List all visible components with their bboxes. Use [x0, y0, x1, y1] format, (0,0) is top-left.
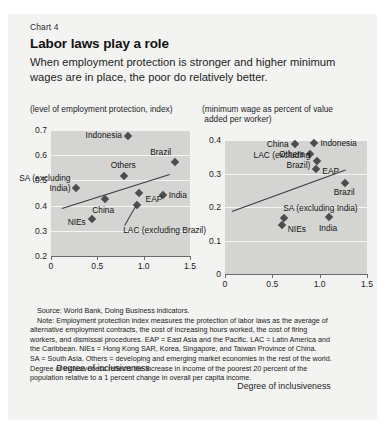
data-point-label-line: Indonesia [86, 130, 122, 140]
data-point-label-line: China [92, 205, 114, 215]
data-point-label: LAC (excludingBrazil) [254, 151, 311, 171]
x-axis-tickmark [225, 275, 226, 278]
x-axis-line [51, 256, 191, 257]
x-axis-tickmark [367, 275, 368, 278]
data-point-marker [124, 132, 132, 140]
data-point-label-line: NIEs [68, 217, 86, 227]
data-point-label-line: LAC (excluding [254, 150, 311, 160]
x-axis-tickmark [97, 257, 98, 260]
data-point-label: China [92, 206, 114, 216]
gridline [51, 180, 190, 181]
y-axis-tick-label: 0.4 [209, 135, 221, 145]
x-axis-tickmark [272, 275, 273, 278]
note-line-7: population relative to a 1 percent chang… [30, 373, 360, 383]
data-point-label-line: Indonesia [320, 138, 356, 148]
data-point-label: EAP [146, 195, 163, 205]
y-axis-tick-label: 0 [216, 269, 221, 279]
x-axis-line [225, 274, 368, 275]
data-point-marker [341, 179, 349, 187]
y-axis-tick-label: 0.3 [209, 169, 221, 179]
chart-number-label: Chart 4 [30, 22, 59, 32]
note-line-2: alternative employment contracts, the co… [30, 325, 360, 335]
data-point-label: India [169, 191, 187, 201]
y-axis-tick-label: 0.4 [35, 201, 47, 211]
x-axis-tick-label: 0.5 [266, 279, 278, 289]
note-line-6: Degree of inclusiveness reflects the inc… [30, 364, 360, 374]
note-line-1: Note: Employment protection index measur… [30, 316, 360, 326]
data-point-marker [134, 189, 142, 197]
data-point-label-line: Brazil [334, 187, 355, 197]
note-source: Source: World Bank, Doing Business indic… [30, 306, 360, 316]
x-axis-tickmark [51, 257, 52, 260]
data-point-label-line: India [319, 223, 337, 233]
data-point-marker [120, 172, 128, 180]
x-axis-tick-label: 1.5 [361, 279, 373, 289]
data-point-marker [171, 158, 179, 166]
label-leader-line [124, 205, 137, 226]
data-point-marker [88, 215, 96, 223]
data-point-label: SA (excluding India) [283, 204, 358, 214]
data-point-label: EAP [322, 167, 339, 177]
x-axis-tick-label: 1.0 [314, 279, 326, 289]
note-line-4: the Caribbean. NIEs = Hong Kong SAR, Kor… [30, 344, 360, 354]
y-axis-tick-label: 0.7 [35, 125, 47, 135]
x-axis-tickmark [320, 275, 321, 278]
x-axis-tickmark [144, 257, 145, 260]
data-point-marker [290, 140, 298, 148]
gridline [225, 241, 367, 242]
y-axis-tick-label: 0.1 [209, 236, 221, 246]
data-point-label: Others [111, 161, 136, 171]
data-point-label: Indonesia [320, 139, 356, 149]
data-point-label-line: EAP [146, 194, 163, 204]
y-axis-tick-label: 0.2 [209, 202, 221, 212]
x-axis-tick-label: 0.5 [91, 261, 103, 271]
data-point-marker [101, 195, 109, 203]
data-point-label: India [319, 224, 337, 234]
data-point-label-line: EAP [322, 166, 339, 176]
chart-subtitle: When employment protection is stronger a… [30, 55, 360, 84]
data-point-label: Indonesia [86, 131, 122, 141]
x-axis-tickmark [190, 257, 191, 260]
data-point-label-line: China [267, 139, 289, 149]
chart-title: Labor laws play a role [30, 36, 169, 51]
data-point-label-line: India) [50, 183, 71, 193]
left-plot-area: IndonesiaBrazilOthersSA (excludingIndia)… [51, 130, 190, 256]
data-point-label: NIEs [288, 225, 306, 235]
x-axis-tick-label: 0 [223, 279, 228, 289]
x-axis-tick-label: 1.0 [138, 261, 150, 271]
data-point-marker [278, 221, 286, 229]
y-axis-tick-label: 0.3 [35, 226, 47, 236]
data-point-label: NIEs [68, 218, 86, 228]
note-line-5: SA = South Asia. Others = developing and… [30, 354, 360, 364]
data-point-label-line: Others [111, 160, 136, 170]
data-point-label-line: India [169, 190, 187, 200]
chart-figure: Chart 4 Labor laws play a role When empl… [0, 0, 385, 426]
data-point-label-line: Brazil) [287, 160, 311, 170]
right-plot-area: ChinaIndonesiaOthersLAC (excludingBrazil… [225, 140, 367, 274]
data-point-label-line: SA (excluding India) [283, 203, 358, 213]
data-point-marker [313, 157, 321, 165]
data-point-marker [72, 184, 80, 192]
data-point-label-line: Brazil [150, 147, 171, 157]
y-axis-tick-label: 0.5 [35, 175, 47, 185]
chart-notes: Source: World Bank, Doing Business indic… [30, 306, 360, 383]
x-axis-tick-label: 0 [49, 261, 54, 271]
data-point-label: Brazil [150, 148, 171, 158]
data-point-marker [325, 213, 333, 221]
note-line-3: workers, and dismissal procedures. EAP =… [30, 335, 360, 345]
data-point-marker [312, 165, 320, 173]
data-point-label: Brazil [334, 188, 355, 198]
data-point-label-line: NIEs [288, 224, 306, 234]
y-axis-tick-label: 0.6 [35, 150, 47, 160]
gridline [225, 174, 367, 175]
y-axis-tick-label: 0.2 [35, 251, 47, 261]
